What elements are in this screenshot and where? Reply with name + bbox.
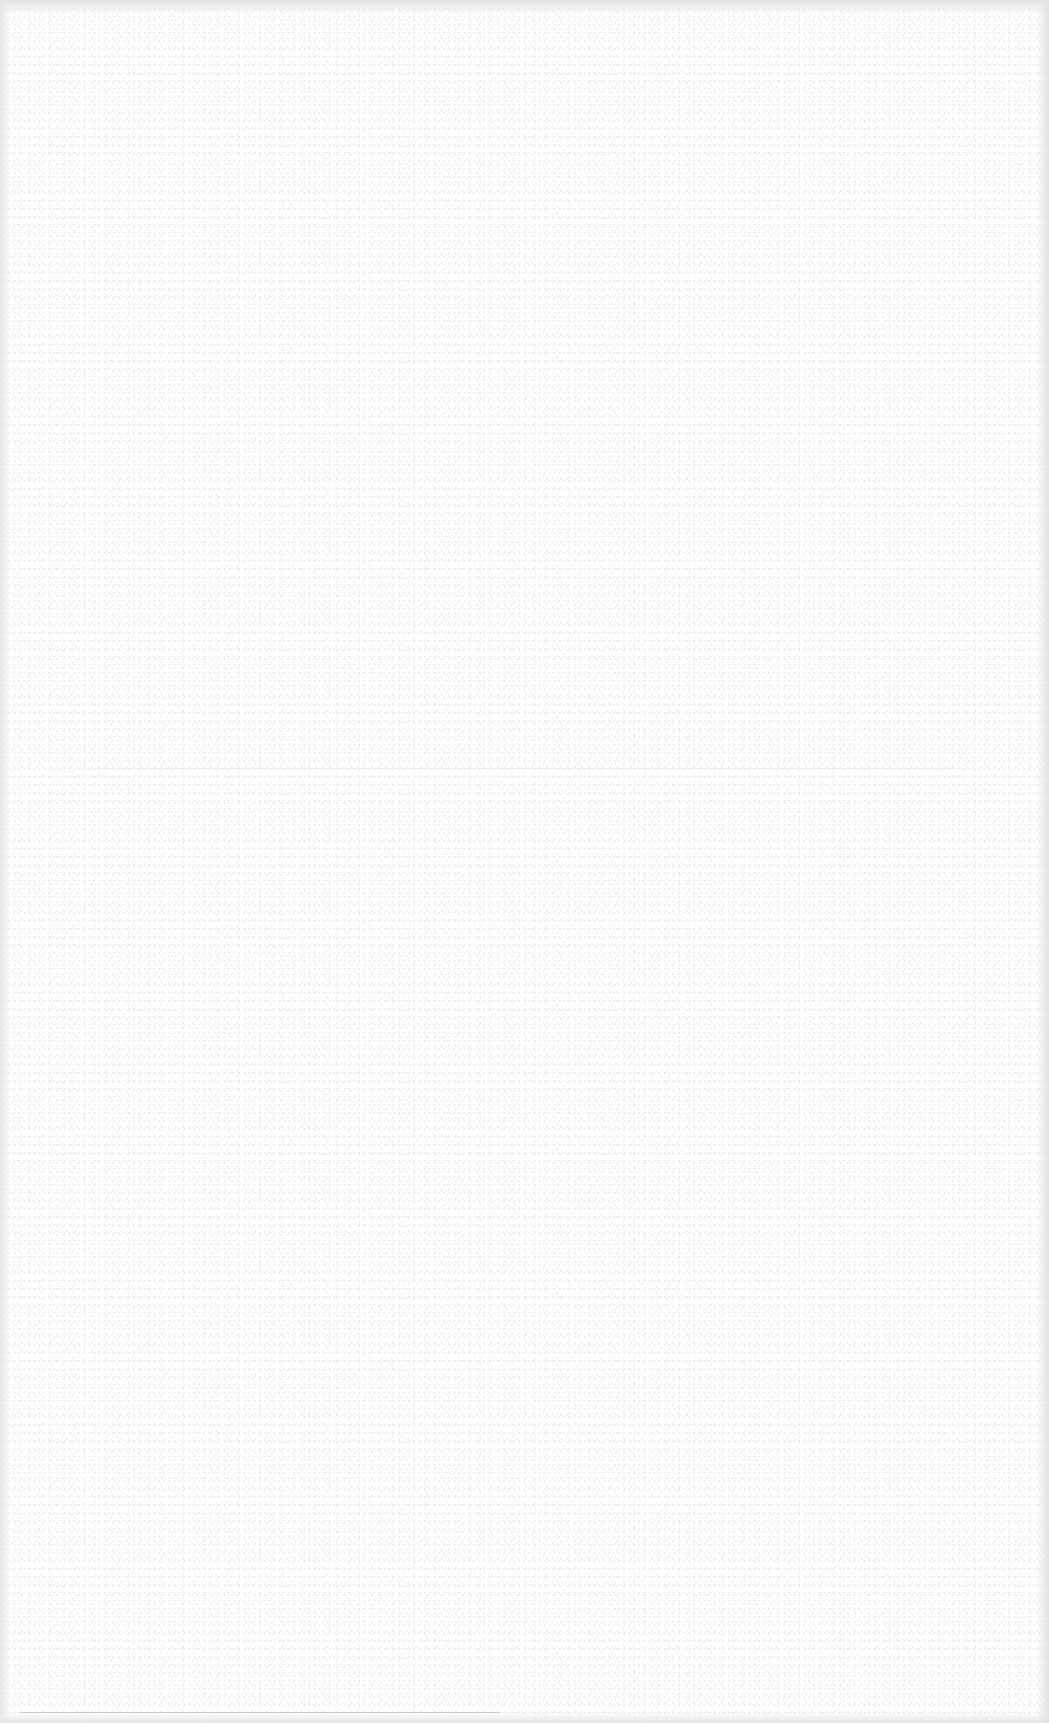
faint-rule-middle [40, 768, 1010, 769]
scan-noise [0, 0, 1049, 1723]
scan-edge-bottom [0, 1713, 1049, 1723]
faint-rule-bottom [20, 1712, 500, 1713]
scan-edge-right [1037, 0, 1049, 1723]
scan-edge-left [0, 0, 10, 1723]
scan-edge-top [0, 0, 1049, 14]
blank-document-page [0, 0, 1049, 1723]
